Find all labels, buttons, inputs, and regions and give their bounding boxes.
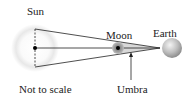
moon-label: Moon bbox=[106, 30, 132, 41]
moon-center-dot bbox=[116, 46, 120, 50]
not-to-scale-note: Not to scale bbox=[19, 84, 72, 95]
earth-label: Earth bbox=[153, 28, 177, 39]
umbra-label: Umbra bbox=[117, 84, 148, 95]
sun-label: Sun bbox=[27, 6, 44, 17]
sun-center-dot bbox=[33, 46, 37, 50]
earth bbox=[162, 38, 182, 58]
